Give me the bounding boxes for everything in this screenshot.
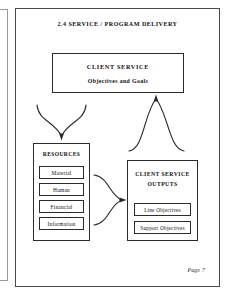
arrowhead-down-icon: [59, 134, 64, 141]
connector-outputs-to-objectives-left: [129, 99, 156, 151]
node-outputs-items: Line Objectives Support Objectives: [134, 203, 191, 234]
connector-outputs-to-objectives-right: [156, 99, 184, 151]
connector-resources-to-outputs-top: [94, 175, 122, 200]
page-title: 2.4 SERVICE / PROGRAM DELIVERY: [16, 21, 219, 27]
node-client-service-title: CLIENT SERVICE: [53, 63, 183, 70]
arrowhead-up-icon: [154, 95, 159, 102]
list-item: Line Objectives: [134, 203, 191, 216]
list-item: Information: [39, 217, 84, 230]
scanned-page-canvas: 2.4 SERVICE / PROGRAM DELIVERY CLIENT SE…: [0, 0, 234, 301]
node-resources: RESOURCES Material Human Financial Infor…: [33, 143, 90, 241]
node-resources-items: Material Human Financial Information: [39, 166, 84, 230]
connector-objectives-to-resources-left: [37, 105, 62, 136]
node-outputs-title-line1: CLIENT SERVICE: [128, 170, 197, 180]
page-number: Page 7: [188, 267, 206, 273]
page-sheet: 2.4 SERVICE / PROGRAM DELIVERY CLIENT SE…: [15, 8, 220, 287]
node-resources-title: RESOURCES: [34, 151, 89, 157]
connector-resources-to-outputs-bottom: [94, 200, 122, 225]
node-outputs-title: CLIENT SERVICE OUTPUTS: [128, 170, 197, 189]
adjacent-page-edge: [0, 9, 8, 281]
list-item: Financial: [39, 200, 84, 213]
node-client-service: CLIENT SERVICE Objectives and Goals: [52, 53, 184, 93]
node-outputs-title-line2: OUTPUTS: [128, 180, 197, 190]
list-item: Human: [39, 183, 84, 196]
arrowhead-right-icon: [120, 198, 127, 203]
list-item: Support Objectives: [134, 221, 191, 234]
node-client-service-subtitle: Objectives and Goals: [53, 78, 183, 84]
connector-objectives-to-resources-right: [62, 105, 87, 136]
node-client-service-outputs: CLIENT SERVICE OUTPUTS Line Objectives S…: [127, 160, 198, 241]
list-item: Material: [39, 166, 84, 179]
